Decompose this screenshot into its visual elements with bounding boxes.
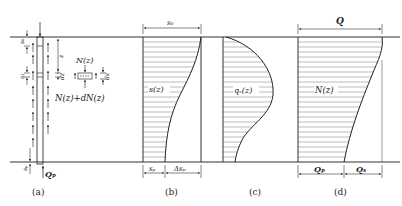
Q-dim-label: Q [336, 16, 344, 26]
sp-dim-label: sₚ [149, 165, 156, 173]
panel-a-pile: s₀ s₁ z dz sₚ N(z) ds N(z)+dN(z) Qₚ (a) [18, 22, 110, 197]
Qs-dim-label: Qₛ [356, 164, 366, 174]
dz-label: dz [58, 72, 65, 80]
ds-label: ds [103, 73, 110, 80]
settlement-curve [165, 37, 201, 162]
axial-force-curve [344, 37, 382, 162]
qs-z-label: qₛ(z) [234, 86, 252, 95]
caption-c: (c) [249, 187, 261, 197]
caption-a: (a) [32, 187, 44, 197]
skin-friction-curve [226, 37, 273, 162]
sp-label: sₚ [21, 165, 28, 171]
panel-b-settlement: s₀ s(z) sₚ Δsₚ (b) [143, 19, 210, 197]
pile-load-transfer-diagram: s₀ s₁ z dz sₚ N(z) ds N(z)+dN(z) Qₚ (a) [0, 0, 402, 206]
Qp-dim-label: Qₚ [314, 164, 325, 174]
Qp-label: Qₚ [45, 169, 56, 179]
s1-label: s₁ [18, 74, 25, 79]
N-z-plus-dN-label: N(z)+dN(z) [54, 93, 105, 103]
N-z-diagram-label: N(z) [314, 85, 334, 95]
panel-d-axial-force: Q N(z) Qₚ Qₛ (d) [298, 16, 390, 197]
N-z-label: N(z) [75, 56, 93, 65]
caption-b: (b) [165, 187, 178, 197]
s0-label: s₀ [18, 38, 25, 44]
caption-d: (d) [334, 187, 347, 197]
s-z-label: s(z) [149, 85, 164, 94]
element-free-body [75, 65, 106, 88]
s0-dim-label: s₀ [167, 19, 174, 27]
pile-shaft [37, 37, 43, 164]
delta-sp-dim-label: Δsₚ [173, 165, 186, 173]
panel-c-skin-friction: qₛ(z) (c) [223, 37, 290, 197]
diagram-canvas: s₀ s₁ z dz sₚ N(z) ds N(z)+dN(z) Qₚ (a) [0, 0, 402, 206]
